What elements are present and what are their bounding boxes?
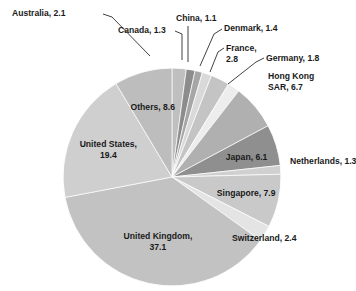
pie-label-japan: Japan, 6.1 — [226, 152, 268, 162]
pie-label-china: China, 1.1 — [176, 13, 217, 23]
pie-label-denmark: Denmark, 1.4 — [224, 23, 278, 33]
leader-line-denmark — [200, 29, 222, 66]
pie-label-australia: Australia, 2.1 — [12, 8, 66, 18]
pie-label-switzerland: Switzerland, 2.4 — [232, 233, 297, 243]
pie-label-germany: Germany, 1.8 — [266, 53, 320, 63]
leader-line-australia — [103, 14, 150, 56]
pie-label-netherlands: Netherlands, 1.3 — [290, 156, 356, 166]
leader-line-canada — [175, 31, 182, 60]
pie-label-singapore: Singapore, 7.9 — [217, 188, 276, 198]
pie-label-canada: Canada, 1.3 — [118, 25, 166, 35]
pie-label-others: Others, 8.6 — [131, 102, 176, 112]
pie-chart-canvas: Japan, 6.1Singapore, 7.9United Kingdom,3… — [0, 0, 356, 291]
pie-label-france: France,2.8 — [226, 43, 257, 64]
pie-chart-figure: Japan, 6.1Singapore, 7.9United Kingdom,3… — [0, 0, 356, 291]
leader-line-france — [210, 48, 224, 72]
pie-label-hong-kong-sar: Hong KongSAR, 6.7 — [268, 71, 314, 92]
